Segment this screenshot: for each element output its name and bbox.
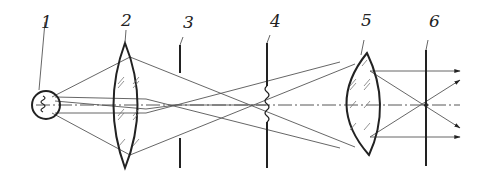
label-6: 6 [429, 11, 440, 31]
light-source [32, 22, 60, 119]
label-4: 4 [269, 11, 281, 31]
label-3: 3 [183, 12, 194, 32]
projection-lens [346, 40, 380, 155]
label-1: 1 [41, 12, 52, 32]
rays-output [370, 71, 460, 137]
optical-diagram: 1 2 3 4 5 6 [0, 0, 487, 179]
label-2: 2 [120, 10, 132, 30]
aperture-diaphragm [180, 37, 183, 168]
rays-source-to-condenser [52, 57, 146, 155]
label-5: 5 [361, 10, 372, 30]
rays-condenser-to-projection [130, 57, 355, 155]
image-plane [424, 40, 428, 166]
object-plane [265, 35, 270, 168]
